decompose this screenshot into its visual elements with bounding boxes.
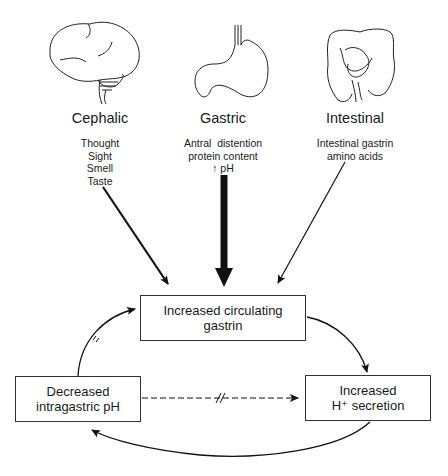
box-text: gastrin bbox=[163, 318, 282, 333]
box-text: intragastric pH bbox=[36, 399, 120, 414]
box-text: H⁺ secretion bbox=[332, 398, 405, 413]
box-decreased-ph: Decreasedintragastric pH bbox=[15, 376, 141, 422]
inhibition-mark bbox=[93, 336, 99, 342]
gastric-arrow-head bbox=[215, 268, 233, 287]
box-text: Increased circulating bbox=[163, 303, 282, 318]
intestinal-arrow bbox=[278, 162, 345, 283]
gastrin-to-secretion-arrow bbox=[307, 317, 367, 372]
ph-to-gastrin-arrow bbox=[78, 309, 135, 376]
box-text: Increased bbox=[332, 383, 405, 398]
box-increased-secretion: IncreasedH⁺ secretion bbox=[305, 375, 431, 421]
box-text: Decreased bbox=[36, 384, 120, 399]
secretion-to-ph-arrow bbox=[92, 422, 370, 456]
cephalic-arrow bbox=[103, 187, 168, 284]
box-increased-gastrin: Increased circulatinggastrin bbox=[140, 295, 306, 341]
